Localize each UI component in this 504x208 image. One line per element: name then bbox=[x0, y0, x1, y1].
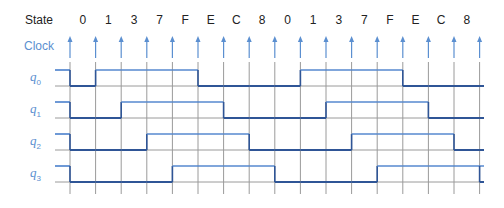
state-label: F bbox=[386, 13, 393, 27]
state-labels: 0137FEC80137FEC8 bbox=[79, 13, 470, 27]
waveforms bbox=[55, 70, 484, 182]
state-label: C bbox=[232, 13, 241, 27]
state-label: 3 bbox=[131, 13, 138, 27]
waveform-q2 bbox=[55, 134, 484, 150]
state-label: 0 bbox=[79, 13, 86, 27]
clock-edges bbox=[68, 36, 483, 58]
clock-edge-arrow-icon bbox=[196, 36, 201, 58]
state-label: 8 bbox=[259, 13, 266, 27]
clock-edge-arrow-icon bbox=[93, 36, 98, 58]
signal-labels: q0q1q2q3 bbox=[30, 69, 42, 183]
waveform-q1 bbox=[55, 102, 484, 118]
clock-edge-arrow-icon bbox=[298, 36, 303, 58]
signal-label-q3: q3 bbox=[30, 165, 42, 183]
clock-edge-arrow-icon bbox=[426, 36, 431, 58]
clock-edge-arrow-icon bbox=[477, 36, 482, 58]
clock-edge-arrow-icon bbox=[170, 36, 175, 58]
state-label: F bbox=[182, 13, 189, 27]
clock-edge-arrow-icon bbox=[349, 36, 354, 58]
state-label: 7 bbox=[156, 13, 163, 27]
signal-label-q1: q1 bbox=[30, 101, 42, 119]
waveform-q0 bbox=[55, 70, 484, 86]
timing-diagram: State 0137FEC80137FEC8 Clock q0q1q2q3 bbox=[0, 0, 504, 208]
state-label: 7 bbox=[361, 13, 368, 27]
state-label: 1 bbox=[105, 13, 112, 27]
state-row-title: State bbox=[25, 13, 53, 27]
state-label: 8 bbox=[463, 13, 470, 27]
signal-label-q0: q0 bbox=[30, 69, 42, 87]
state-label: E bbox=[207, 13, 215, 27]
clock-edge-arrow-icon bbox=[68, 36, 73, 58]
clock-edge-arrow-icon bbox=[324, 36, 329, 58]
clock-edge-arrow-icon bbox=[400, 36, 405, 58]
clock-edge-arrow-icon bbox=[272, 36, 277, 58]
waveform-q3 bbox=[55, 166, 484, 182]
clock-label: Clock bbox=[24, 39, 55, 53]
signal-label-q2: q2 bbox=[30, 133, 42, 151]
state-label: 3 bbox=[335, 13, 342, 27]
state-label: E bbox=[412, 13, 420, 27]
grid-lines bbox=[55, 62, 484, 194]
clock-edge-arrow-icon bbox=[247, 36, 252, 58]
clock-edge-arrow-icon bbox=[119, 36, 124, 58]
clock-edge-arrow-icon bbox=[452, 36, 457, 58]
clock-edge-arrow-icon bbox=[221, 36, 226, 58]
state-label: 0 bbox=[284, 13, 291, 27]
state-label: 1 bbox=[310, 13, 317, 27]
clock-edge-arrow-icon bbox=[144, 36, 149, 58]
state-label: C bbox=[437, 13, 446, 27]
clock-edge-arrow-icon bbox=[375, 36, 380, 58]
